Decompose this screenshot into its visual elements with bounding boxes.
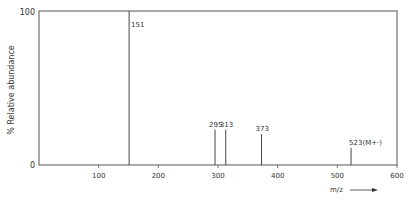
- x-axis-label: m/z: [330, 186, 343, 194]
- peak-label: 313: [220, 121, 233, 129]
- peak-label: 151: [131, 21, 144, 29]
- peaks: 151295313373523(M+·): [129, 11, 382, 165]
- x-axis-ticks: 100200300400500600: [92, 165, 404, 180]
- x-tick-label: 600: [390, 172, 403, 180]
- y-axis-label: % Relative abundance: [7, 45, 16, 135]
- peak-label: 373: [256, 125, 269, 133]
- x-tick-label: 200: [152, 172, 165, 180]
- peak-label: 523(M+·): [349, 139, 382, 147]
- x-tick-label: 300: [211, 172, 224, 180]
- plot-frame: [39, 11, 397, 165]
- y-tick-100: 100: [20, 8, 35, 17]
- y-tick-0: 0: [30, 161, 35, 170]
- x-tick-label: 500: [331, 172, 344, 180]
- mass-spectrum-chart: 151295313373523(M+·) 100200300400500600 …: [0, 0, 412, 203]
- x-tick-label: 100: [92, 172, 105, 180]
- arrow-head-icon: [372, 188, 378, 192]
- x-tick-label: 400: [271, 172, 284, 180]
